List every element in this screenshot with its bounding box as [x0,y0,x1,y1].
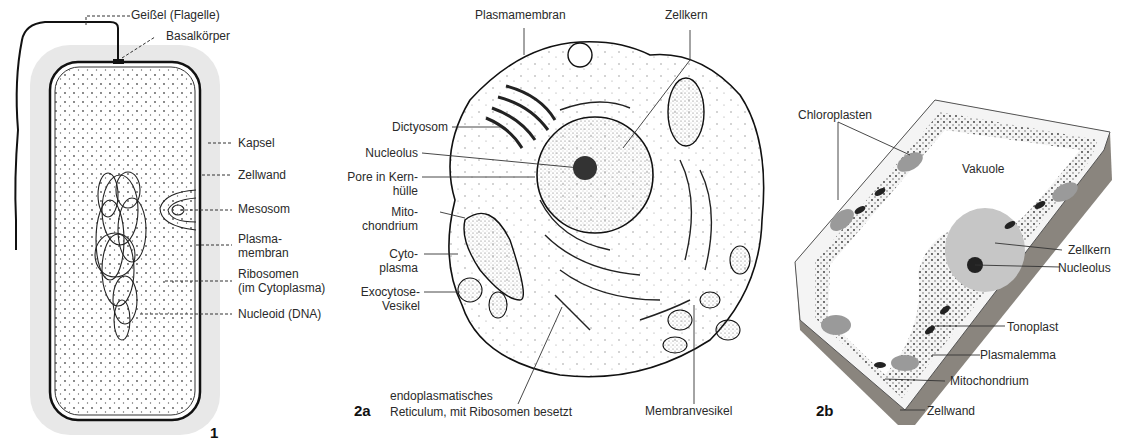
label-cytoplasma: Cyto- plasma [350,247,418,275]
label-zellkern-2b: Zellkern [1068,243,1111,257]
figure-number-1: 1 [210,424,218,441]
label-ribosomen: Ribosomen (im Cytoplasma) [238,267,325,295]
label-zellkern-2a: Zellkern [665,8,708,22]
label-endoplasmatisches-reticulum: endoplasmatisches Reticulum, mit Ribosom… [390,388,572,420]
animal-cell-illustration [422,28,764,404]
label-chloroplasten: Chloroplasten [798,108,872,122]
label-vakuole: Vakuole [962,162,1004,176]
label-mitochondrium-2b: Mitochondrium [950,374,1029,388]
label-membranvesikel: Membranvesikel [645,404,732,418]
label-zellwand-2b: Zellwand [927,404,975,418]
label-geissel: Geißel (Flagelle) [131,8,220,22]
label-basalkoerper: Basalkörper [166,29,230,43]
label-pore-kernhuelle: Pore in Kern- hülle [330,170,418,198]
label-nucleolus-2a: Nucleolus [354,146,418,160]
label-nucleoid: Nucleoid (DNA) [238,307,321,321]
label-mesosom: Mesosom [238,202,290,216]
label-plasmalemma: Plasmalemma [980,348,1056,362]
label-dictyosom: Dictyosom [354,120,448,134]
label-plasmamembran: Plasma- membran [238,232,289,260]
label-plasmamembran-2a: Plasmamembran [475,8,566,22]
label-kapsel: Kapsel [238,136,275,150]
label-zellwand: Zellwand [238,168,286,182]
label-nucleolus-2b: Nucleolus [1058,261,1111,275]
label-exocytose-vesikel: Exocytose- Vesikel [340,285,420,313]
label-tonoplast: Tonoplast [1007,320,1058,334]
figure-number-2b: 2b [816,402,834,419]
label-mitochondrium-2a: Mito- chondrium [350,205,418,233]
figure-number-2a: 2a [354,402,371,419]
bacterium-illustration [15,16,232,435]
